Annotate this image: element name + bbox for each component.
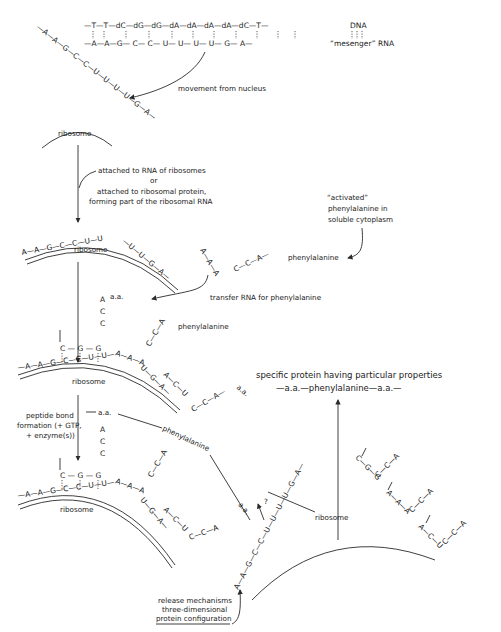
activated-line-1: “activated” xyxy=(327,193,368,202)
dna-mrna-pair: —T—T—dC—dG—dG—dA—dA—dA—dA—dC—T— —A—A—G— … xyxy=(84,21,395,48)
attached-line-3: forming part of the ribosomal RNA xyxy=(89,197,213,206)
protein-synthesis-diagram: —T—T—dC—dG—dG—dA—dA—dA—dA—dC—T— —A—A—G— … xyxy=(0,0,501,632)
ribosome-label-5: ribosome xyxy=(315,513,349,522)
attached-line-1: attached to RNA of ribosomes xyxy=(98,166,206,175)
svg-text:A—C—U: A—C—U xyxy=(417,522,445,550)
svg-text:A—A—A: A—A—A xyxy=(114,348,146,367)
phenylalanine-label-free: phenylalanine xyxy=(288,253,339,262)
mrna-strand-text: —A—A—G— C— C— U— U— U— U— G— A— xyxy=(84,39,253,48)
ribosome-arc-5 xyxy=(252,547,435,600)
svg-text:A—A—A: A—A—A xyxy=(385,488,413,516)
svg-text:C—C—A: C—C—A xyxy=(440,518,469,547)
svg-text:C: C xyxy=(100,437,105,446)
trna-label: transfer RNA for phenylalanine xyxy=(210,293,322,302)
activation-arrow xyxy=(348,228,362,258)
mrna-legend: “mesenger” RNA xyxy=(330,39,395,48)
svg-text:C—C—A: C—C—A xyxy=(373,451,402,480)
svg-text:—A—A—G—C—C—U—U—U—U—G—A—: —A—A—G—C—C—U—U—U—U—G—A— xyxy=(35,22,159,121)
release-arrow xyxy=(232,590,240,624)
svg-text:C — G — G: C — G — G xyxy=(60,471,102,480)
svg-text:—A—A—G—C—C—U—U—: —A—A—G—C—C—U—U— xyxy=(17,477,115,500)
release-line-2: three-dimensional xyxy=(162,605,227,614)
release-line-1: release mechanisms xyxy=(158,596,232,605)
dna-strand-text: —T—T—dC—dG—dG—dA—dA—dA—dA—dC—T— xyxy=(84,21,269,30)
svg-text:A: A xyxy=(100,425,106,434)
attached-or: or xyxy=(150,176,157,185)
ribosome-label-2: ribosome xyxy=(74,245,108,254)
released-mrna: A—A—G—C—C—U—U—U—U—G—A— xyxy=(232,461,307,591)
svg-text:a.a.: a.a. xyxy=(235,383,251,399)
phenylalanine-label-3: phenylalanine xyxy=(178,322,229,331)
trna-arrow xyxy=(152,275,208,299)
movement-label: movement from nucleus xyxy=(178,84,266,93)
svg-text:C: C xyxy=(100,449,105,458)
attach-connector xyxy=(79,171,96,188)
ribosome-4: A C C C — G — G —A—A—G—C—C—U—U— ribosome… xyxy=(17,425,252,568)
free-trna: A—A—A C—C—A— phenylalanine xyxy=(198,247,339,279)
released-trnas: C—G—G C—C—A A—A—A C—C—A A—C—U C—C—A xyxy=(354,448,469,550)
svg-text:C—C—A: C—C—A xyxy=(188,523,221,542)
ribosome-3: A a.a. C C C — G — G —A—A—G—C—C—U—U— rib… xyxy=(17,292,251,414)
svg-text:A—A—A: A—A—A xyxy=(114,476,146,495)
protein-label-2: —a.a.—phenylalanine—a.a.— xyxy=(276,383,402,393)
phenylalanine-diag: phenylalanine xyxy=(161,424,211,454)
svg-text:C: C xyxy=(100,319,105,328)
svg-text:a.a.: a.a. xyxy=(110,292,123,301)
release-line-3: protein configuration xyxy=(156,614,232,623)
protein-label-1: specific protein having particular prope… xyxy=(256,370,443,380)
activated-line-3: soluble cytoplasm xyxy=(328,215,393,224)
svg-text:C: C xyxy=(100,307,105,316)
svg-text:a.a.: a.a. xyxy=(98,408,111,417)
svg-text:C—C—A: C—C—A xyxy=(407,486,436,515)
svg-text:A: A xyxy=(100,295,106,304)
svg-text:C—C—A—: C—C—A— xyxy=(190,387,228,414)
svg-text:C—C—A: C—C—A xyxy=(146,447,170,479)
diagonal-mrna: —A—A—G—C—C—U—U—U—U—G—A— xyxy=(35,22,159,121)
svg-text:C—C—A—: C—C—A— xyxy=(232,249,271,273)
peptide-line-1: peptide bond xyxy=(26,411,74,420)
ribosome-label-4: ribosome xyxy=(60,505,94,514)
peptide-line-3: + enzyme(s)) xyxy=(26,431,75,440)
svg-text:C—C—A: C—C—A xyxy=(144,316,168,348)
ribosome-label-1: ribosome xyxy=(58,129,92,138)
svg-text:a.a.: a.a. xyxy=(236,501,252,517)
peptide-line-2: formation (+ GTP, xyxy=(17,421,82,430)
svg-text:A—A—A: A—A—A xyxy=(198,247,221,279)
attached-line-2: attached to ribosomal protein, xyxy=(97,187,206,196)
svg-text:—U—U—G—A—: —U—U—G—A— xyxy=(121,237,173,282)
activated-line-2: phenylalanine in xyxy=(328,204,388,213)
ribosome-label-3: ribosome xyxy=(72,377,106,386)
dna-legend: DNA xyxy=(350,21,367,30)
question-mark: ? xyxy=(264,497,268,506)
